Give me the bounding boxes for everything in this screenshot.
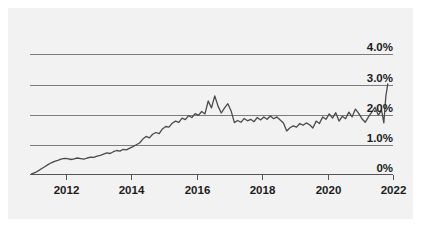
chart-figure: 0%1.0%2.0%3.0%4.0% 201220142016201820202…: [0, 0, 421, 227]
x-axis-labels-group: 201220142016201820202022: [54, 184, 407, 196]
y-axis-tick-label: 4.0%: [367, 41, 393, 53]
x-axis-tick-label: 2016: [185, 184, 211, 196]
x-axis-tick-label: 2012: [54, 184, 80, 196]
y-axis-tick-label: 1.0%: [367, 132, 393, 144]
y-axis-tick-label: 0%: [376, 162, 393, 174]
x-axis-tick-label: 2022: [381, 184, 407, 196]
y-axis-tick-label: 3.0%: [367, 72, 393, 84]
x-axis-tick-label: 2020: [316, 184, 342, 196]
y-axis-labels-group: 0%1.0%2.0%3.0%4.0%: [367, 41, 393, 174]
gridlines-group: [30, 55, 393, 146]
line-chart-svg: 0%1.0%2.0%3.0%4.0% 201220142016201820202…: [0, 0, 421, 227]
x-axis-tick-label: 2014: [119, 184, 145, 196]
x-axis-tick-label: 2018: [250, 184, 276, 196]
y-axis-tick-label: 2.0%: [367, 102, 393, 114]
data-series-line: [32, 84, 388, 174]
